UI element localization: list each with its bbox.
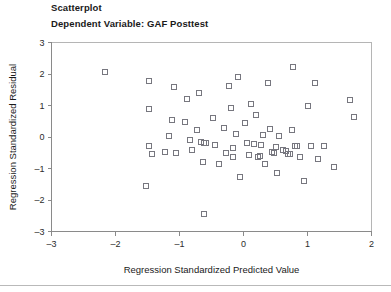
data-point bbox=[347, 97, 352, 102]
data-point bbox=[103, 70, 108, 75]
x-axis-title: Regression Standardized Predicted Value bbox=[124, 264, 300, 275]
data-point bbox=[251, 141, 256, 146]
data-point bbox=[235, 75, 240, 80]
data-point bbox=[187, 137, 192, 142]
scatterplot-canvas: –3–2–10123–3–2–1012 Regression Standardi… bbox=[0, 0, 391, 292]
data-point bbox=[200, 160, 205, 165]
x-tick-label: 0 bbox=[241, 239, 246, 249]
data-point bbox=[309, 144, 314, 149]
axis-ticks bbox=[48, 43, 372, 236]
data-point bbox=[169, 117, 174, 122]
data-point bbox=[147, 106, 152, 111]
data-point bbox=[259, 142, 264, 147]
data-point bbox=[297, 154, 302, 159]
data-point bbox=[171, 84, 176, 89]
data-point bbox=[246, 153, 251, 158]
data-point bbox=[267, 127, 272, 132]
y-tick-label: 2 bbox=[39, 69, 44, 79]
data-point bbox=[195, 128, 200, 133]
data-point bbox=[167, 134, 172, 139]
data-point bbox=[189, 147, 194, 152]
data-point bbox=[301, 179, 306, 184]
data-point bbox=[313, 80, 318, 85]
data-point bbox=[217, 162, 222, 167]
data-point bbox=[223, 151, 228, 156]
data-point bbox=[254, 113, 259, 118]
data-point bbox=[227, 83, 232, 88]
data-point bbox=[185, 96, 190, 101]
data-point bbox=[196, 90, 201, 95]
y-tick-label: 0 bbox=[39, 132, 44, 142]
data-point bbox=[321, 144, 326, 149]
data-point bbox=[331, 165, 336, 170]
data-point bbox=[291, 65, 296, 70]
data-point bbox=[233, 132, 238, 137]
data-point bbox=[315, 157, 320, 162]
data-point bbox=[228, 106, 233, 111]
y-tick-label: –2 bbox=[34, 195, 44, 205]
data-point bbox=[230, 145, 235, 150]
data-point bbox=[213, 142, 218, 147]
data-point bbox=[144, 184, 149, 189]
data-point bbox=[265, 80, 270, 85]
y-axis-title: Regression Standardized Residual bbox=[7, 64, 18, 210]
y-tick-label: 3 bbox=[39, 38, 44, 48]
data-point bbox=[273, 144, 278, 149]
data-point bbox=[275, 170, 280, 175]
data-point bbox=[237, 175, 242, 180]
data-point bbox=[248, 101, 253, 106]
plot-frame bbox=[52, 43, 372, 232]
data-point bbox=[305, 103, 310, 108]
data-point bbox=[231, 154, 236, 159]
x-tick-label: –3 bbox=[46, 239, 56, 249]
data-point bbox=[242, 121, 247, 126]
data-point bbox=[182, 120, 187, 125]
footer-divider bbox=[0, 285, 391, 286]
data-point bbox=[263, 162, 268, 167]
data-point bbox=[244, 140, 249, 145]
y-tick-label: 1 bbox=[39, 101, 44, 111]
data-point bbox=[163, 150, 168, 155]
data-point bbox=[289, 128, 294, 133]
data-point bbox=[351, 115, 356, 120]
x-tick-label: 2 bbox=[369, 239, 374, 249]
data-point bbox=[149, 152, 154, 157]
data-point bbox=[261, 133, 266, 138]
x-tick-label: 1 bbox=[305, 239, 310, 249]
data-point bbox=[221, 125, 226, 130]
x-tick-label: –1 bbox=[174, 239, 184, 249]
data-point bbox=[211, 115, 216, 120]
data-point bbox=[277, 134, 282, 139]
y-tick-label: –1 bbox=[34, 164, 44, 174]
y-tick-label: –3 bbox=[34, 227, 44, 237]
data-point bbox=[174, 151, 179, 156]
x-tick-label: –2 bbox=[110, 239, 120, 249]
data-point bbox=[147, 78, 152, 83]
scatterplot-figure: Scatterplot Dependent Variable: GAF Post… bbox=[0, 0, 391, 292]
data-points bbox=[103, 65, 356, 217]
data-point bbox=[202, 212, 207, 217]
data-point bbox=[147, 144, 152, 149]
